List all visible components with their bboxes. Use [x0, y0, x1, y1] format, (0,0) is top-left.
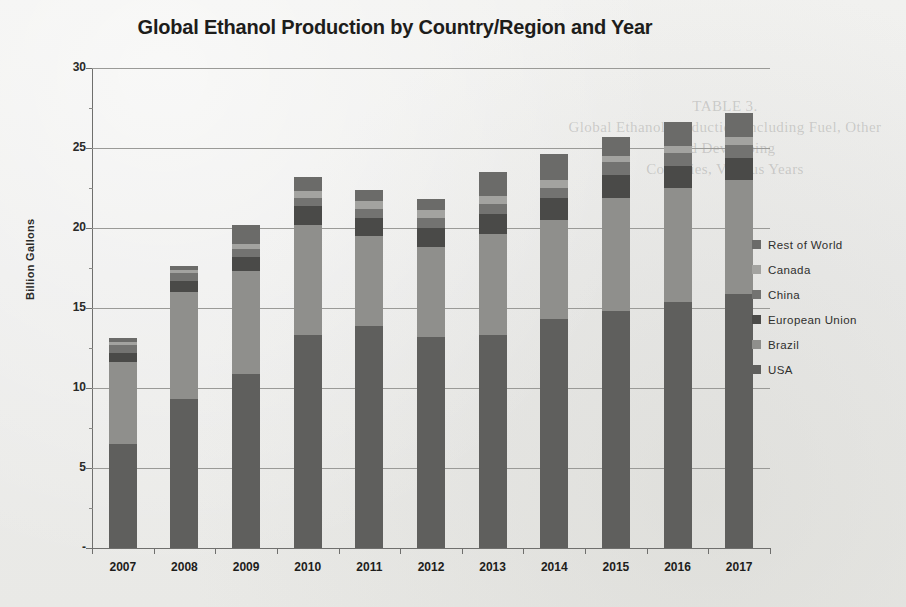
bar-segment[interactable]	[725, 294, 753, 548]
bar-stack[interactable]	[725, 68, 753, 548]
bar-segment[interactable]	[540, 319, 568, 548]
bar-segment[interactable]	[294, 225, 322, 335]
bar-stack[interactable]	[294, 68, 322, 548]
bar-segment[interactable]	[540, 180, 568, 188]
x-axis-line	[92, 548, 771, 549]
bar-stack[interactable]	[170, 68, 198, 548]
bar-stack[interactable]	[479, 68, 507, 548]
bar-segment[interactable]	[109, 342, 137, 345]
bar-segment[interactable]	[170, 270, 198, 273]
x-tick-label: 2017	[709, 560, 769, 574]
bar-segment[interactable]	[602, 162, 630, 175]
x-tick-mark	[339, 548, 340, 554]
bar-segment[interactable]	[417, 247, 445, 337]
x-tick-mark	[585, 548, 586, 554]
bar-segment[interactable]	[294, 177, 322, 191]
bar-segment[interactable]	[664, 146, 692, 152]
legend-label: USA	[768, 364, 793, 376]
bar-segment[interactable]	[417, 199, 445, 210]
bar-segment[interactable]	[479, 196, 507, 204]
bar-stack[interactable]	[232, 68, 260, 548]
bar-segment[interactable]	[355, 236, 383, 326]
x-tick-mark	[92, 548, 93, 554]
legend-item[interactable]: Rest of World	[752, 232, 857, 257]
bar-segment[interactable]	[294, 206, 322, 225]
bar-segment[interactable]	[540, 188, 568, 198]
bar-stack[interactable]	[355, 68, 383, 548]
bar-segment[interactable]	[479, 335, 507, 548]
legend-item[interactable]: Canada	[752, 257, 857, 282]
legend-swatch-icon	[752, 265, 761, 274]
bar-segment[interactable]	[602, 198, 630, 312]
bar-segment[interactable]	[417, 218, 445, 228]
y-tick-label: 15	[42, 300, 86, 314]
bar-segment[interactable]	[664, 166, 692, 188]
x-tick-label: 2014	[524, 560, 584, 574]
bar-segment[interactable]	[170, 399, 198, 548]
bar-stack[interactable]	[540, 68, 568, 548]
bar-segment[interactable]	[417, 210, 445, 218]
x-tick-label: 2010	[278, 560, 338, 574]
bar-segment[interactable]	[540, 198, 568, 220]
legend-item[interactable]: European Union	[752, 307, 857, 332]
legend-item[interactable]: USA	[752, 357, 857, 382]
bar-segment[interactable]	[602, 156, 630, 162]
bar-segment[interactable]	[725, 145, 753, 158]
x-tick-label: 2011	[339, 560, 399, 574]
bar-segment[interactable]	[664, 122, 692, 146]
bar-segment[interactable]	[232, 257, 260, 271]
bar-segment[interactable]	[355, 201, 383, 209]
bar-segment[interactable]	[294, 335, 322, 548]
bar-segment[interactable]	[725, 137, 753, 145]
bar-segment[interactable]	[294, 191, 322, 197]
bar-segment[interactable]	[602, 311, 630, 548]
bar-segment[interactable]	[355, 218, 383, 236]
bar-segment[interactable]	[725, 158, 753, 180]
bar-segment[interactable]	[232, 249, 260, 257]
bar-segment[interactable]	[479, 234, 507, 335]
legend-swatch-icon	[752, 340, 761, 349]
bar-stack[interactable]	[602, 68, 630, 548]
bar-segment[interactable]	[602, 175, 630, 197]
x-tick-mark	[215, 548, 216, 554]
bar-segment[interactable]	[725, 180, 753, 294]
bar-segment[interactable]	[540, 220, 568, 319]
bar-segment[interactable]	[664, 153, 692, 166]
bar-segment[interactable]	[417, 337, 445, 548]
bar-segment[interactable]	[664, 302, 692, 548]
bar-segment[interactable]	[109, 338, 137, 341]
bar-segment[interactable]	[109, 345, 137, 353]
x-tick-mark	[770, 548, 771, 554]
bar-segment[interactable]	[355, 209, 383, 219]
bar-segment[interactable]	[355, 190, 383, 201]
legend-item[interactable]: China	[752, 282, 857, 307]
bar-segment[interactable]	[170, 266, 198, 269]
plot-area	[92, 68, 770, 548]
bar-segment[interactable]	[294, 198, 322, 206]
bar-segment[interactable]	[479, 204, 507, 214]
bar-segment[interactable]	[725, 113, 753, 137]
bar-stack[interactable]	[417, 68, 445, 548]
bar-segment[interactable]	[232, 374, 260, 548]
bar-segment[interactable]	[417, 228, 445, 247]
bar-segment[interactable]	[109, 362, 137, 444]
bar-segment[interactable]	[540, 154, 568, 180]
bar-segment[interactable]	[232, 271, 260, 373]
bar-segment[interactable]	[232, 244, 260, 249]
y-tick-label: 25	[42, 140, 86, 154]
bar-segment[interactable]	[479, 214, 507, 235]
bar-segment[interactable]	[109, 444, 137, 548]
bar-segment[interactable]	[170, 273, 198, 281]
bar-segment[interactable]	[664, 188, 692, 302]
bar-stack[interactable]	[664, 68, 692, 548]
legend-item[interactable]: Brazil	[752, 332, 857, 357]
bar-segment[interactable]	[109, 353, 137, 363]
bar-segment[interactable]	[479, 172, 507, 196]
bar-segment[interactable]	[170, 281, 198, 292]
bar-segment[interactable]	[602, 137, 630, 156]
x-tick-mark	[154, 548, 155, 554]
bar-segment[interactable]	[355, 326, 383, 548]
bar-segment[interactable]	[232, 225, 260, 244]
bar-segment[interactable]	[170, 292, 198, 399]
bar-stack[interactable]	[109, 68, 137, 548]
